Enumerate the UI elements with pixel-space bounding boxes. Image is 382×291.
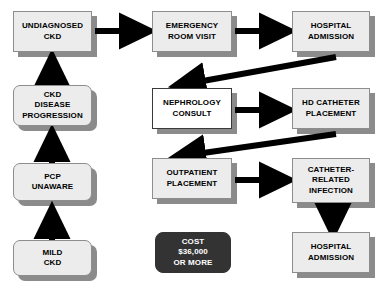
node-catheter-related-infection[interactable]: CATHETER- RELATED INFECTION — [292, 158, 370, 203]
node-label-cost-callout: COST $36,000 OR MORE — [174, 237, 213, 269]
flowchart-canvas: UNDIAGNOSED CKD EMERGENCY ROOM VISIT HOS… — [0, 0, 382, 291]
node-label-emergency-room-visit: EMERGENCY ROOM VISIT — [166, 21, 218, 42]
node-label-ckd-disease-progression: CKD DISEASE PROGRESSION — [22, 90, 83, 122]
node-label-outpatient-placement: OUTPATIENT PLACEMENT — [167, 168, 218, 189]
node-undiagnosed-ckd[interactable]: UNDIAGNOSED CKD — [13, 11, 92, 52]
node-label-nephrology-consult: NEPHROLOGY CONSULT — [163, 98, 221, 119]
node-hospital-admission-bottom[interactable]: HOSPITAL ADMISSION — [292, 232, 370, 273]
node-pcp-unaware[interactable]: PCP UNAWARE — [13, 163, 92, 201]
node-label-mild-ckd: MILD CKD — [43, 248, 63, 269]
node-hospital-admission-top[interactable]: HOSPITAL ADMISSION — [292, 11, 370, 52]
node-outpatient-placement[interactable]: OUTPATIENT PLACEMENT — [152, 158, 232, 199]
node-label-hospital-admission-bottom: HOSPITAL ADMISSION — [308, 242, 354, 263]
node-ckd-disease-progression[interactable]: CKD DISEASE PROGRESSION — [13, 85, 92, 126]
edge-hd-catheter-placement-to-outpatient-placement — [175, 134, 336, 157]
node-label-undiagnosed-ckd: UNDIAGNOSED CKD — [22, 21, 83, 42]
node-emergency-room-visit[interactable]: EMERGENCY ROOM VISIT — [152, 11, 232, 52]
node-label-hospital-admission-top: HOSPITAL ADMISSION — [308, 21, 354, 42]
node-nephrology-consult[interactable]: NEPHROLOGY CONSULT — [152, 88, 232, 129]
node-mild-ckd[interactable]: MILD CKD — [13, 240, 92, 276]
node-cost-callout[interactable]: COST $36,000 OR MORE — [155, 232, 231, 273]
node-label-hd-catheter-placement: HD CATHETER PLACEMENT — [302, 98, 360, 119]
node-label-catheter-related-infection: CATHETER- RELATED INFECTION — [308, 165, 355, 197]
node-label-pcp-unaware: PCP UNAWARE — [32, 172, 74, 193]
node-hd-catheter-placement[interactable]: HD CATHETER PLACEMENT — [292, 88, 370, 129]
edge-hospital-admission-to-nephrology-consult — [175, 57, 336, 86]
